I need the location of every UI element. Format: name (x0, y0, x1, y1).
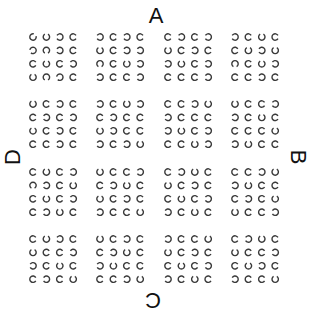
landolt-ring-icon (272, 48, 278, 54)
ring-block-2-2 (165, 169, 212, 216)
landolt-ring-icon (205, 196, 211, 202)
landolt-ring-icon (192, 47, 198, 53)
landolt-ring-icon (124, 128, 130, 134)
ring-block-0-2 (165, 34, 212, 81)
landolt-ring-icon (97, 34, 103, 40)
landolt-ring-icon (178, 276, 184, 282)
landolt-ring-icon (110, 141, 116, 147)
landolt-ring-icon (124, 61, 130, 67)
landolt-ring-icon (205, 74, 211, 80)
landolt-ring-icon (70, 101, 76, 107)
landolt-ring-icon (259, 115, 265, 121)
landolt-ring-icon (178, 114, 184, 120)
ring-block-0-1 (97, 34, 144, 81)
landolt-ring-icon (111, 249, 117, 255)
landolt-ring-icon (124, 183, 130, 189)
landolt-ring-icon (179, 169, 185, 175)
landolt-ring-icon (137, 141, 143, 147)
landolt-ring-icon (178, 101, 184, 107)
landolt-ring-icon (43, 169, 49, 175)
landolt-ring-icon (192, 141, 198, 147)
landolt-ring-icon (205, 276, 211, 282)
landolt-ring-icon (43, 196, 49, 202)
landolt-ring-icon (232, 47, 238, 53)
landolt-ring-icon (259, 169, 265, 175)
landolt-ring-icon (110, 61, 116, 67)
landolt-ring-icon (272, 263, 278, 269)
landolt-ring-icon (43, 61, 49, 67)
landolt-ring-icon (124, 250, 130, 256)
landolt-ring-icon (97, 48, 103, 54)
landolt-ring-icon (111, 114, 117, 120)
landolt-ring-icon (178, 196, 184, 202)
ring-block-3-2 (165, 236, 212, 283)
landolt-ring-icon (165, 141, 171, 147)
landolt-ring-icon (205, 236, 211, 242)
landolt-ring-icon (205, 209, 211, 215)
landolt-ring-icon (43, 47, 49, 53)
landolt-ring-icon (259, 182, 265, 188)
landolt-ring-icon (30, 169, 36, 175)
landolt-ring-icon (259, 74, 265, 80)
landolt-ring-icon (70, 114, 76, 120)
landolt-ring-icon (245, 209, 251, 215)
landolt-ring-icon (178, 141, 184, 147)
ring-block-3-1 (97, 236, 144, 283)
landolt-ring-icon (245, 74, 251, 80)
landolt-ring-icon (70, 34, 76, 40)
landolt-ring-icon (192, 74, 198, 80)
landolt-ring-icon (43, 74, 49, 80)
landolt-ring-icon (57, 169, 63, 175)
landolt-ring-icon (192, 236, 198, 242)
landolt-ring-icon (192, 61, 198, 67)
landolt-ring-icon (43, 141, 49, 147)
landolt-ring-icon (97, 101, 103, 107)
landolt-ring-icon (110, 74, 116, 80)
landolt-ring-icon (192, 114, 198, 120)
landolt-ring-icon (30, 74, 36, 80)
landolt-ring-icon (70, 128, 76, 134)
landolt-ring-icon (205, 141, 211, 147)
ring-block-1-2 (165, 101, 212, 148)
landolt-ring-icon (30, 263, 36, 269)
landolt-ring-icon (272, 128, 278, 134)
landolt-ring-icon (110, 34, 116, 40)
landolt-ring-icon (205, 128, 211, 134)
landolt-ring-icon (179, 34, 185, 40)
landolt-ring-icon (57, 114, 63, 120)
landolt-ring-icon (165, 183, 171, 189)
landolt-ring-icon (178, 128, 184, 134)
landolt-ring-icon (70, 141, 76, 147)
ring-canvas (0, 0, 310, 313)
landolt-ring-icon (165, 128, 171, 134)
landolt-ring-icon (30, 61, 36, 67)
landolt-ring-icon (246, 236, 252, 242)
landolt-ring-icon (137, 209, 143, 215)
landolt-ring-icon (30, 276, 36, 282)
landolt-ring-icon (57, 182, 63, 188)
landolt-ring-icon (259, 141, 265, 147)
landolt-ring-icon (97, 249, 103, 255)
landolt-ring-icon (259, 128, 265, 134)
landolt-ring-icon (259, 209, 265, 215)
landolt-ring-icon (232, 209, 238, 215)
landolt-ring-icon (272, 34, 278, 40)
landolt-ring-icon (70, 249, 76, 255)
landolt-ring-icon (272, 249, 278, 255)
landolt-ring-icon (259, 61, 265, 67)
landolt-ring-icon (43, 128, 49, 134)
landolt-ring-icon (137, 61, 143, 67)
landolt-ring-icon (205, 182, 211, 188)
ring-block-2-0 (30, 169, 77, 216)
landolt-ring-icon (192, 263, 198, 269)
landolt-ring-icon (137, 128, 143, 134)
landolt-ring-icon (110, 236, 116, 242)
landolt-ring-icon (178, 47, 184, 53)
landolt-ring-icon (97, 141, 103, 147)
landolt-ring-icon (57, 209, 63, 215)
landolt-ring-icon (272, 196, 278, 202)
landolt-ring-icon (245, 141, 251, 147)
ring-block-0-3 (232, 34, 279, 81)
landolt-ring-icon (57, 276, 63, 282)
landolt-ring-icon (232, 61, 238, 67)
